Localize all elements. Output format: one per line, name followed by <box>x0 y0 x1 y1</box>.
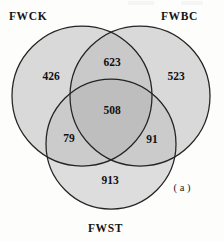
panel-caption: ( a ) <box>174 182 191 193</box>
region-count-fwbc-only: 523 <box>167 70 184 82</box>
region-count-fwck-fwst: 79 <box>63 132 75 144</box>
set-label-fwck: FWCK <box>9 10 47 22</box>
region-count-fwbc-fwst: 91 <box>146 133 158 145</box>
region-count-fwck-fwbc: 623 <box>103 56 120 68</box>
venn-circles-graphic <box>0 0 224 241</box>
region-count-fwck-only: 426 <box>42 70 59 82</box>
region-count-fwst-only: 913 <box>101 174 118 186</box>
venn-diagram-figure: FWCK FWBC FWST 426 523 913 623 79 91 508… <box>0 0 224 241</box>
set-label-fwbc: FWBC <box>161 10 198 22</box>
set-label-fwst: FWST <box>88 222 123 234</box>
region-count-all-three: 508 <box>103 104 120 116</box>
